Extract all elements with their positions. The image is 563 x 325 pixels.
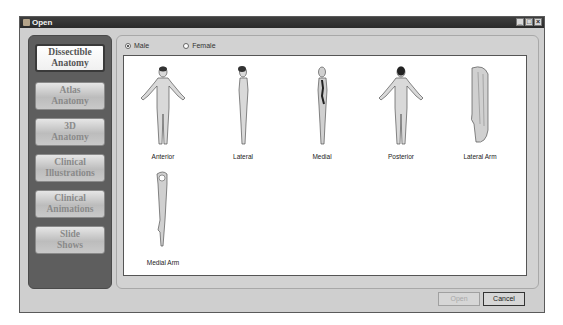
view-gallery: Anterior Lateral <box>123 55 527 276</box>
nav-label-line1: Clinical <box>54 193 86 204</box>
content-panel: Male Female Anterior <box>116 35 539 289</box>
lateral-body-icon <box>213 64 273 150</box>
maximize-button[interactable]: □ <box>525 18 533 26</box>
nav-label-line1: Atlas <box>59 85 80 96</box>
open-dialog: Open _ □ × Dissectible Anatomy Atlas Ana… <box>19 16 545 313</box>
cancel-button[interactable]: Cancel <box>483 292 525 306</box>
nav-3d-anatomy[interactable]: 3D Anatomy <box>35 118 105 146</box>
open-button[interactable]: Open <box>438 292 480 306</box>
radio-male[interactable]: Male <box>125 42 149 49</box>
nav-clinical-illustrations[interactable]: Clinical Illustrations <box>35 154 105 182</box>
thumb-medial-arm[interactable]: Medial Arm <box>128 170 198 270</box>
nav-label-line1: Dissectible <box>48 47 91 58</box>
window-title: Open <box>32 17 52 28</box>
nav-label-line2: Animations <box>47 204 94 215</box>
nav-slide-shows[interactable]: Slide Shows <box>35 226 105 254</box>
radio-checked-icon <box>125 43 131 49</box>
module-sidebar: Dissectible Anatomy Atlas Anatomy 3D Ana… <box>28 35 112 289</box>
thumb-anterior[interactable]: Anterior <box>128 64 198 164</box>
nav-clinical-animations[interactable]: Clinical Animations <box>35 190 105 218</box>
thumb-label: Medial <box>287 153 357 160</box>
thumb-label: Lateral <box>208 153 278 160</box>
radio-label: Male <box>134 42 149 49</box>
nav-label-line1: Clinical <box>54 157 86 168</box>
thumb-lateral[interactable]: Lateral <box>208 64 278 164</box>
nav-dissectible-anatomy[interactable]: Dissectible Anatomy <box>35 44 105 72</box>
close-button[interactable]: × <box>534 18 542 26</box>
minimize-button[interactable]: _ <box>516 18 524 26</box>
thumb-label: Anterior <box>128 153 198 160</box>
posterior-body-icon <box>371 64 431 150</box>
thumb-label: Lateral Arm <box>445 153 515 160</box>
nav-label-line1: 3D <box>64 121 76 132</box>
nav-label-line2: Anatomy <box>51 58 88 69</box>
thumb-label: Posterior <box>366 153 436 160</box>
thumb-posterior[interactable]: Posterior <box>366 64 436 164</box>
nav-label-line2: Illustrations <box>45 168 95 179</box>
nav-atlas-anatomy[interactable]: Atlas Anatomy <box>35 82 105 110</box>
radio-label: Female <box>192 42 215 49</box>
nav-label-line2: Shows <box>57 240 83 251</box>
app-icon <box>23 19 30 26</box>
lateral-arm-icon <box>450 64 510 150</box>
medial-arm-icon <box>133 170 193 256</box>
nav-label-line2: Anatomy <box>51 96 88 107</box>
radio-unchecked-icon <box>183 43 189 49</box>
medial-body-icon <box>292 64 352 150</box>
thumb-label: Medial Arm <box>128 259 198 266</box>
thumb-lateral-arm[interactable]: Lateral Arm <box>445 64 515 164</box>
nav-label-line2: Anatomy <box>51 132 88 143</box>
nav-label-line1: Slide <box>60 229 80 240</box>
title-bar[interactable]: Open _ □ × <box>20 17 544 28</box>
anterior-body-icon <box>133 64 193 150</box>
radio-female[interactable]: Female <box>183 42 215 49</box>
gender-selector: Male Female <box>125 42 216 49</box>
thumb-medial[interactable]: Medial <box>287 64 357 164</box>
